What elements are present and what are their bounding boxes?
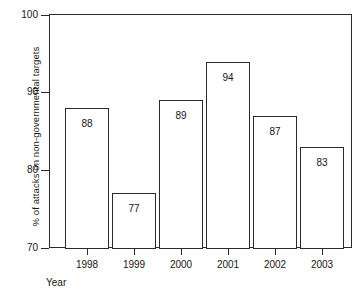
x-tick-mark-2002 — [275, 248, 276, 255]
bar-2000: 89 — [159, 100, 203, 249]
y-tick-mark-90 — [41, 92, 49, 93]
bar-value-1999: 77 — [113, 203, 155, 214]
x-axis-title: Year — [46, 277, 66, 288]
x-tick-mark-1998 — [87, 248, 88, 255]
y-tick-label-90: 90 — [0, 87, 38, 97]
y-axis-title: % of attacks on non-governmental targets — [30, 17, 41, 257]
bar-chart: % of attacks on non-governmental targets… — [0, 0, 364, 301]
bar-value-1998: 88 — [66, 118, 108, 129]
bar-2003: 83 — [300, 147, 344, 249]
x-tick-mark-2000 — [181, 248, 182, 255]
bar-1999: 77 — [112, 193, 156, 249]
x-tick-mark-2003 — [322, 248, 323, 255]
bar-2002: 87 — [253, 116, 297, 249]
bar-value-2001: 94 — [207, 72, 249, 83]
bar-value-2000: 89 — [160, 110, 202, 121]
y-tick-mark-80 — [41, 170, 49, 171]
bar-value-2003: 83 — [301, 157, 343, 168]
bar-value-2002: 87 — [254, 126, 296, 137]
bar-1998: 88 — [65, 108, 109, 249]
y-tick-mark-100 — [41, 15, 49, 16]
y-tick-mark-70 — [41, 248, 49, 249]
bar-2001: 94 — [206, 62, 250, 249]
y-tick-label-70: 70 — [0, 243, 38, 253]
x-tick-mark-1999 — [134, 248, 135, 255]
y-tick-label-100: 100 — [0, 10, 38, 20]
y-tick-label-80: 80 — [0, 165, 38, 175]
x-tick-mark-2001 — [228, 248, 229, 255]
x-tick-label-2003: 2003 — [294, 259, 350, 270]
